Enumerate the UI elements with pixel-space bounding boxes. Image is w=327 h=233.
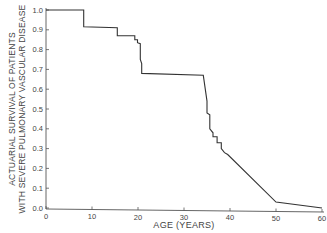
y-axis-title-line-2: WITH SEVERE PULMONARY VASCULAR DISEASE — [17, 4, 27, 213]
x-tick-label: 60 — [318, 214, 326, 223]
y-axis-ticks: 0.00.10.20.30.40.50.60.70.80.91.0 — [33, 6, 49, 213]
y-tick-label: 0.6 — [33, 85, 43, 94]
y-tick-label: 0.5 — [33, 105, 43, 114]
x-tick-label: 10 — [88, 212, 96, 221]
x-tick-label: 20 — [134, 213, 142, 222]
x-tick-label: 50 — [272, 214, 280, 223]
y-tick-label: 0.7 — [33, 65, 43, 74]
y-tick-label: 0.1 — [33, 184, 43, 193]
x-tick-label: 0 — [44, 212, 48, 221]
survival-chart: ACTUARIAL SURVIVAL OF PATIENTS WITH SEVE… — [0, 0, 327, 233]
axes — [46, 8, 324, 212]
y-tick-label: 1.0 — [33, 6, 43, 15]
y-tick-label: 0.2 — [33, 164, 43, 173]
x-axis-title: AGE (YEARS) — [153, 220, 214, 230]
survival-curve — [46, 10, 322, 208]
y-tick-label: 0.4 — [33, 124, 43, 133]
y-tick-label: 0.9 — [33, 25, 43, 34]
y-tick-label: 0.0 — [33, 204, 43, 213]
chart-svg: ACTUARIAL SURVIVAL OF PATIENTS WITH SEVE… — [0, 0, 327, 233]
x-tick-label: 40 — [226, 213, 234, 222]
y-axis-title: ACTUARIAL SURVIVAL OF PATIENTS WITH SEVE… — [7, 4, 27, 213]
y-tick-label: 0.8 — [33, 45, 43, 54]
y-tick-label: 0.3 — [33, 144, 43, 153]
y-axis-title-line-1: ACTUARIAL SURVIVAL OF PATIENTS — [7, 32, 17, 186]
